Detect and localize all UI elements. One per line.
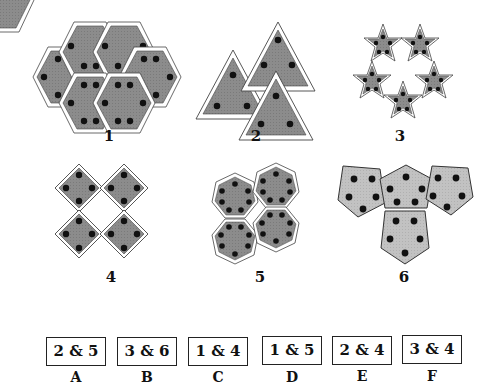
figure-6-pentagons: [338, 165, 473, 264]
option-f-letter: F: [402, 368, 462, 384]
option-c-letter: C: [188, 369, 248, 385]
option-d-letter: D: [262, 369, 322, 385]
figure-label-5: 5: [245, 268, 275, 286]
figure-4-diamonds: [55, 164, 148, 258]
figure-1-hexagons: [0, 0, 34, 32]
option-f-box[interactable]: 3 & 4: [402, 335, 462, 364]
figure-5-heptagons: [212, 163, 299, 264]
figure-label-2: 2: [241, 127, 271, 145]
figure-3-stars: [353, 24, 453, 118]
figure-2-triangles: [196, 22, 315, 140]
option-b-letter: B: [117, 369, 177, 385]
option-a-letter: A: [46, 369, 106, 385]
option-b-box[interactable]: 3 & 6: [117, 337, 177, 366]
option-d-box[interactable]: 1 & 5: [262, 336, 322, 365]
figure-label-3: 3: [385, 127, 415, 145]
option-e-letter: E: [332, 368, 392, 384]
option-c-box[interactable]: 1 & 4: [188, 337, 248, 366]
option-a-box[interactable]: 2 & 5: [46, 337, 106, 366]
figures-canvas: [0, 0, 493, 389]
figure-label-1: 1: [94, 127, 124, 145]
figure-label-6: 6: [389, 268, 419, 286]
option-e-box[interactable]: 2 & 4: [332, 336, 392, 365]
figure-label-4: 4: [96, 268, 126, 286]
